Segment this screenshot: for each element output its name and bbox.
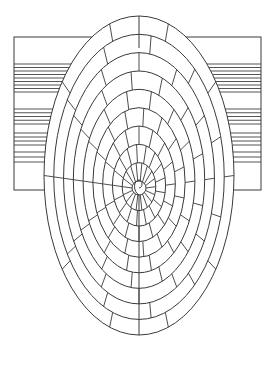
spiral-line-art	[0, 0, 275, 374]
